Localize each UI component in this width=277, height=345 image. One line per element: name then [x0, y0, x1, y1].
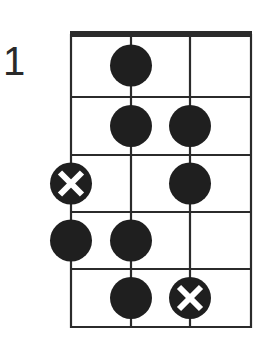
fretboard-grid [70, 31, 252, 328]
nut [70, 31, 252, 37]
muted-x-marker-icon [169, 277, 211, 319]
finger-dot-icon [110, 45, 152, 87]
finger-dot-icon [169, 163, 211, 205]
finger-dot-icon [50, 220, 92, 262]
fretboard-diagram [0, 0, 277, 345]
finger-dot-icon [169, 105, 211, 147]
muted-x-marker-icon [50, 163, 92, 205]
finger-dot-icon [110, 105, 152, 147]
finger-dot-icon [110, 220, 152, 262]
finger-dot-icon [110, 277, 152, 319]
